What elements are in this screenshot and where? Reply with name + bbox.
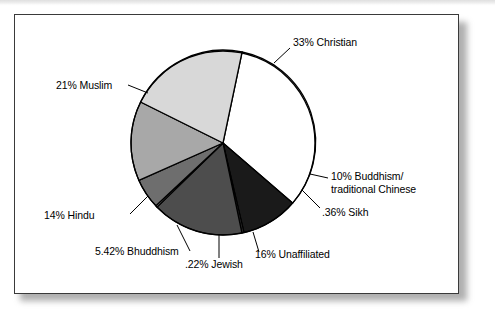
pie-chart: 33% Christian 21% Muslim 14% Hindu 5.42%… [0, 0, 495, 313]
slice-label-unaffiliated: 16% Unaffiliated [255, 248, 330, 261]
slice-label-christian: 33% Christian [293, 36, 357, 49]
leader-line-buddhism [310, 174, 328, 178]
pie-chart-svg [0, 0, 495, 313]
slice-label-buddhism-line2: traditional Chinese [331, 183, 416, 196]
slice-label-muslim: 21% Muslim [56, 79, 112, 92]
leader-line-hindu [130, 196, 148, 214]
leader-line-sikh [302, 190, 320, 208]
slice-label-hindu: 14% Hindu [44, 209, 94, 222]
leader-line-christian [274, 48, 290, 63]
slice-label-bhuddhism: 5.42% Bhuddhism [95, 245, 179, 258]
slice-label-sikh: .36% Sikh [322, 206, 368, 219]
leader-line-muslim [128, 85, 148, 93]
slice-label-jewish: .22% Jewish [185, 258, 243, 271]
slice-label-buddhism-line1: 10% Buddhism/ [331, 170, 403, 183]
